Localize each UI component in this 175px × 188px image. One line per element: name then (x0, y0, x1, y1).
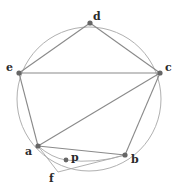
point-d (87, 20, 92, 25)
segment-ed (19, 23, 90, 73)
segment-ab (38, 146, 125, 155)
segment-cb (125, 73, 160, 155)
segment-af (38, 146, 58, 172)
geometry-diagram: d e c a b p f (0, 0, 175, 188)
segment-ac (38, 73, 160, 146)
point-b (122, 152, 127, 157)
label-f: f (49, 172, 55, 185)
label-a: a (25, 145, 32, 158)
circumcircle (17, 27, 161, 171)
segment-dc (90, 23, 160, 73)
label-d: d (93, 10, 101, 23)
point-a (35, 143, 40, 148)
point-e (16, 70, 21, 75)
label-e: e (6, 61, 13, 74)
point-p (64, 158, 69, 163)
point-c (157, 70, 162, 75)
label-b: b (131, 153, 139, 166)
segment-ea (19, 73, 38, 146)
label-p: p (71, 151, 79, 164)
label-c: c (165, 61, 172, 74)
